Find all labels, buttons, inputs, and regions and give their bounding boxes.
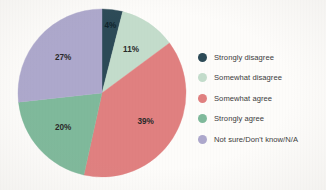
pie-slice-value-label: 39% bbox=[137, 117, 154, 126]
legend-item[interactable]: Somewhat agree bbox=[198, 88, 324, 109]
legend-item-label: Strongly agree bbox=[214, 114, 264, 123]
pie-svg: 4%11%39%20%27% bbox=[17, 8, 187, 178]
chart-legend: Strongly disagreeSomewhat disagreeSomewh… bbox=[198, 47, 324, 150]
legend-item[interactable]: Somewhat disagree bbox=[198, 68, 324, 89]
legend-item[interactable]: Not sure/Don't know/N/A bbox=[198, 129, 324, 150]
pie-plot-area: 4%11%39%20%27% bbox=[17, 8, 187, 178]
legend-swatch-icon bbox=[198, 73, 207, 82]
legend-swatch-icon bbox=[198, 114, 207, 123]
legend-item[interactable]: Strongly disagree bbox=[198, 47, 324, 68]
pie-slice-value-label: 20% bbox=[55, 123, 72, 132]
pie-chart-figure: 4%11%39%20%27% Strongly disagreeSomewhat… bbox=[0, 0, 326, 190]
legend-swatch-icon bbox=[198, 135, 207, 144]
legend-item-label: Somewhat disagree bbox=[214, 73, 282, 82]
legend-item-label: Somewhat agree bbox=[214, 94, 272, 103]
legend-swatch-icon bbox=[198, 53, 207, 62]
pie-slice-value-label: 27% bbox=[55, 53, 72, 62]
legend-item-label: Strongly disagree bbox=[214, 53, 274, 62]
pie-slice-group bbox=[18, 9, 186, 177]
pie-slice-value-label: 11% bbox=[123, 45, 140, 54]
pie-slice-value-label: 4% bbox=[104, 21, 117, 30]
legend-swatch-icon bbox=[198, 94, 207, 103]
legend-item-label: Not sure/Don't know/N/A bbox=[214, 135, 298, 144]
legend-item[interactable]: Strongly agree bbox=[198, 109, 324, 130]
